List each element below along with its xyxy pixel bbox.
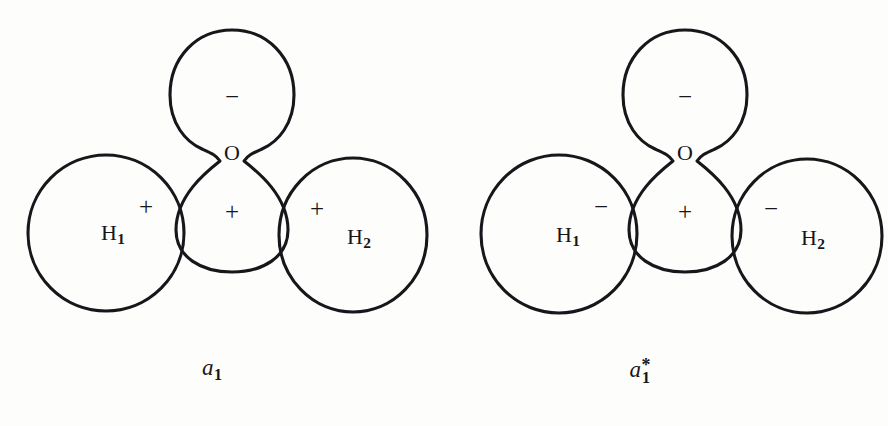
h2-atom-label-a1-star: H2 bbox=[801, 227, 825, 252]
oxygen-upper-lobe-sign-a1: − bbox=[225, 84, 239, 109]
caption-symbol-a1-star: a bbox=[630, 357, 642, 382]
h2-index-subscript-a1: 2 bbox=[363, 234, 371, 251]
mo-diagram-a1: − O + + H1 + H2 a1 bbox=[0, 0, 440, 426]
caption-subscript-a1-star: 1 bbox=[642, 371, 650, 385]
oxygen-upper-lobe-sign-a1-star: − bbox=[678, 84, 692, 109]
caption-star-sub-stack: *1 bbox=[642, 361, 651, 385]
h2-index-subscript-a1-star: 2 bbox=[817, 235, 825, 252]
h1-atom-label-a1: H1 bbox=[101, 222, 125, 247]
h1-index-subscript-a1-star: 1 bbox=[572, 232, 580, 249]
h1-orbital-sign-a1-star: − bbox=[594, 194, 608, 219]
h2-orbital-sign-a1: + bbox=[310, 196, 324, 221]
h2-element-symbol-a1-star: H bbox=[801, 225, 817, 250]
oxygen-atom-label-a1-star: O bbox=[677, 142, 693, 164]
diagram-caption-a1: a1 bbox=[202, 356, 222, 383]
orbital-outline-svg-a1-star bbox=[455, 0, 888, 426]
h1-element-symbol-a1-star: H bbox=[556, 222, 572, 247]
caption-subscript-a1: 1 bbox=[214, 365, 222, 382]
diagram-caption-a1-star: a*1 bbox=[630, 358, 651, 384]
h2-element-symbol-a1: H bbox=[347, 224, 363, 249]
mo-diagram-a1-star: − O + − H1 − H2 a*1 bbox=[455, 0, 888, 426]
h2-orbital-sign-a1-star: − bbox=[764, 196, 778, 221]
oxygen-lower-lobe-sign-a1-star: + bbox=[678, 199, 692, 224]
h2-atom-label-a1: H2 bbox=[347, 226, 371, 251]
h1-atom-label-a1-star: H1 bbox=[556, 224, 580, 249]
h1-orbital-sign-a1: + bbox=[139, 194, 153, 219]
oxygen-lower-lobe-sign-a1: + bbox=[225, 199, 239, 224]
h1-element-symbol-a1: H bbox=[101, 220, 117, 245]
caption-symbol-a1: a bbox=[202, 355, 214, 380]
h1-index-subscript-a1: 1 bbox=[117, 230, 125, 247]
oxygen-atom-label-a1: O bbox=[224, 142, 240, 164]
